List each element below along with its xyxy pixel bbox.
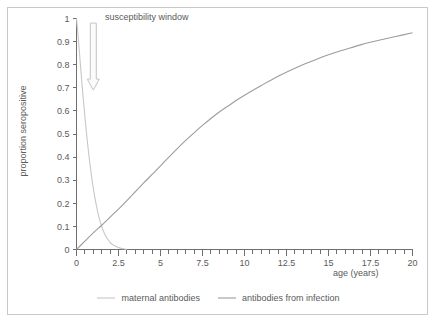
legend-label-antibodies-from-infection: antibodies from infection (242, 293, 340, 303)
y-tick-label: 0 (64, 245, 69, 255)
series-line-antibodies-from-infection (77, 33, 413, 250)
y-tick-label: 0.8 (57, 60, 70, 70)
x-tick-label: 7.5 (196, 258, 209, 268)
x-tick-label: 5 (158, 258, 163, 268)
legend-swatch-maternal-icon (97, 294, 115, 302)
y-tick-label: 1 (64, 14, 69, 24)
x-tick-label: 2.5 (112, 258, 125, 268)
figure-container: 00.10.20.30.40.50.60.70.80.91 02.557.510… (0, 0, 437, 324)
legend-label-maternal-antibodies: maternal antibodies (121, 293, 200, 303)
chart-legend: maternal antibodies antibodies from infe… (0, 293, 437, 303)
y-tick-label: 0.2 (57, 199, 70, 209)
x-tick-label: 0 (74, 258, 79, 268)
susceptibility-window-arrow-icon (87, 23, 99, 90)
legend-item-antibodies-from-infection: antibodies from infection (218, 293, 340, 303)
y-tick-label: 0.7 (57, 83, 70, 93)
y-tick-label: 0.6 (57, 106, 70, 116)
x-tick-label: 10 (239, 258, 249, 268)
legend-item-maternal-antibodies: maternal antibodies (97, 293, 200, 303)
legend-swatch-infection-icon (218, 294, 236, 302)
x-axis-title: age (years) (333, 268, 379, 278)
y-tick-label: 0.3 (57, 175, 70, 185)
x-tick-label: 20 (407, 258, 417, 268)
x-axis-tick-labels: 02.557.51012.51517.520 (74, 258, 418, 268)
x-tick-label: 12.5 (278, 258, 296, 268)
annotation-susceptibility-window: susceptibility window (105, 12, 189, 22)
y-tick-label: 0.4 (57, 152, 70, 162)
y-tick-label: 0.1 (57, 222, 70, 232)
y-axis-tick-labels: 00.10.20.30.40.50.60.70.80.91 (57, 14, 70, 255)
y-tick-label: 0.5 (57, 129, 70, 139)
y-tick-label: 0.9 (57, 37, 70, 47)
series-line-maternal-antibodies (77, 19, 127, 250)
y-axis-title: proportion seropositive (18, 46, 28, 216)
x-tick-label: 17.5 (362, 258, 380, 268)
x-tick-label: 15 (323, 258, 333, 268)
y-axis-ticks (73, 19, 77, 250)
